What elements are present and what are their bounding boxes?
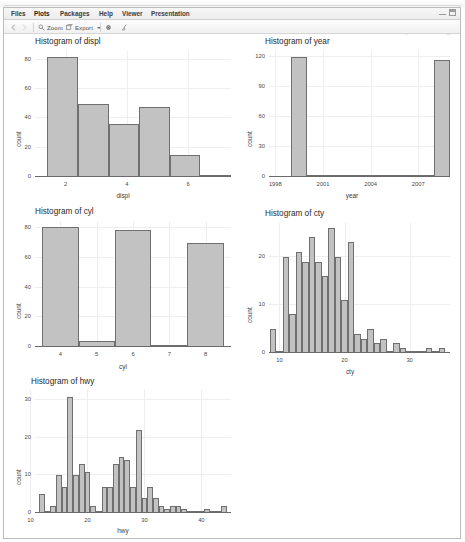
bars (269, 223, 450, 353)
tab-help[interactable]: Help (99, 9, 113, 19)
y-tick-label: 0 (247, 173, 265, 179)
tab-packages[interactable]: Packages (60, 9, 90, 19)
zoom-label: Zoom (47, 25, 63, 31)
plot-area (35, 221, 231, 347)
y-tick-label: 40 (13, 284, 31, 290)
chart-title: Histogram of cyl (35, 207, 94, 216)
x-tick-label: 30 (132, 517, 156, 523)
y-tick-label: 10 (247, 301, 265, 307)
bar (109, 124, 140, 177)
y-tick-label: 20 (13, 434, 31, 440)
plots-toolbar: Zoom Export (4, 20, 460, 34)
chart-histogram-cty: Histogram of cty count cty 01020102030 (237, 203, 460, 379)
bar (315, 262, 322, 353)
y-tick-label: 90 (247, 83, 265, 89)
rstudio-plots-pane: Files Plots Packages Help Viewer Present… (0, 0, 465, 542)
x-axis-label: displ (83, 192, 163, 199)
y-tick-label: 120 (247, 53, 265, 59)
plot-area (269, 223, 450, 353)
tab-bar: Files Plots Packages Help Viewer Present… (4, 8, 460, 20)
x-tick-label: 20 (333, 357, 357, 363)
tab-plots[interactable]: Plots (34, 9, 50, 19)
x-tick-label: 8 (194, 351, 218, 357)
x-tick-label: 6 (121, 351, 145, 357)
export-icon (66, 24, 73, 32)
y-tick-label: 20 (247, 253, 265, 259)
plot-area (269, 51, 450, 177)
x-axis-label: year (317, 192, 387, 199)
bar (170, 155, 201, 177)
y-tick-label: 40 (13, 114, 31, 120)
x-tick-label: 30 (398, 357, 422, 363)
chart-histogram-year: Histogram of year count year 03060901201… (237, 35, 460, 203)
chart-histogram-hwy: Histogram of hwy count hwy 0102030102030… (5, 375, 237, 538)
bar (270, 329, 277, 353)
zoom-button[interactable]: Zoom (38, 22, 63, 33)
bars (269, 51, 450, 177)
clear-plots-button[interactable] (121, 22, 128, 33)
x-tick-label: 4 (115, 181, 139, 187)
chart-histogram-cyl: Histogram of cyl count cyl 0204060804567… (5, 203, 237, 375)
x-tick-label: 6 (176, 181, 200, 187)
plot-area (35, 51, 231, 177)
y-tick-label: 60 (13, 85, 31, 91)
window-top-strip (0, 0, 465, 7)
y-tick-label: 0 (13, 343, 31, 349)
bar (296, 252, 303, 353)
y-tick-label: 30 (247, 143, 265, 149)
y-tick-label: 0 (13, 173, 31, 179)
arrow-left-icon (10, 24, 17, 31)
chart-title: Histogram of year (265, 37, 330, 46)
y-tick-label: 60 (13, 254, 31, 260)
remove-plot-button[interactable] (105, 22, 112, 33)
bar (348, 242, 355, 353)
pane-frame: Files Plots Packages Help Viewer Present… (3, 7, 461, 539)
plot-canvas: Histogram of displ count displ 020406080… (5, 35, 460, 538)
forward-button[interactable] (21, 22, 28, 33)
bar (434, 60, 450, 177)
bar (354, 334, 361, 353)
bar (187, 243, 223, 347)
bar (291, 57, 307, 177)
tab-presentation[interactable]: Presentation (151, 9, 190, 19)
arrow-right-icon (21, 24, 28, 31)
x-tick-label: 10 (18, 517, 42, 523)
bars (35, 389, 231, 513)
bar (139, 107, 170, 177)
x-tick-label: 2 (54, 181, 78, 187)
maximize-icon[interactable] (449, 9, 456, 16)
x-tick-label: 10 (267, 357, 291, 363)
y-tick-label: 30 (13, 396, 31, 402)
gear-icon (105, 24, 112, 32)
y-tick-label: 80 (13, 56, 31, 62)
bar (115, 230, 151, 347)
x-tick-label: 1998 (263, 181, 287, 187)
x-axis-label: hwy (83, 527, 163, 534)
bar (289, 314, 296, 353)
x-tick-label: 7 (157, 351, 181, 357)
tab-viewer[interactable]: Viewer (122, 9, 143, 19)
x-tick-label: 20 (75, 517, 99, 523)
bar (42, 227, 78, 347)
export-label: Export (75, 25, 93, 31)
y-tick-label: 0 (247, 349, 265, 355)
x-axis-label: cty (315, 368, 385, 375)
bar (47, 57, 78, 177)
bars (35, 221, 231, 347)
y-tick-label: 20 (13, 313, 31, 319)
x-tick-label: 4 (48, 351, 72, 357)
x-tick-label: 2007 (406, 181, 430, 187)
y-axis-label: count (246, 307, 253, 323)
x-tick-label: 5 (85, 351, 109, 357)
y-tick-label: 20 (13, 144, 31, 150)
window-buttons (439, 9, 456, 16)
chart-histogram-displ: Histogram of displ count displ 020406080… (5, 35, 237, 203)
minimize-icon[interactable] (439, 9, 446, 16)
magnifier-icon (38, 24, 45, 32)
y-tick-label: 10 (13, 471, 31, 477)
x-tick-label: 2001 (311, 181, 335, 187)
tab-files[interactable]: Files (11, 9, 26, 19)
back-button[interactable] (10, 22, 17, 33)
bar (309, 237, 316, 353)
export-button[interactable]: Export (66, 22, 101, 33)
